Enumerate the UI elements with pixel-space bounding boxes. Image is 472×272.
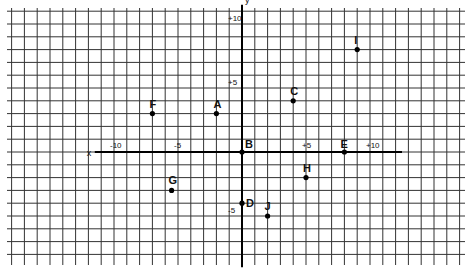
x-tick-label: -10: [110, 141, 122, 150]
point-label-b: B: [245, 138, 253, 150]
x-tick-label: +10: [366, 141, 380, 150]
x-tick-label: -5: [174, 141, 182, 150]
point-label-j: J: [265, 200, 271, 212]
point-label-i: I: [354, 34, 357, 46]
point-label-f: F: [149, 98, 156, 110]
point-c: [291, 98, 296, 103]
grid-lines: [7, 8, 465, 265]
y-tick-label: +5: [228, 78, 238, 87]
point-label-g: G: [169, 174, 178, 186]
point-h: [303, 175, 308, 180]
point-j: [265, 213, 270, 218]
coordinate-plane: xy -10-5+5+10+10+5-5 ABCDEFGHIJ: [0, 0, 472, 272]
x-axis-label: x: [87, 148, 92, 158]
x-tick-label: +5: [302, 141, 312, 150]
point-b: [239, 149, 244, 154]
point-a: [214, 111, 219, 116]
point-d: [239, 201, 244, 206]
y-tick-label: +10: [228, 14, 242, 23]
point-label-d: D: [246, 197, 254, 209]
point-label-a: A: [213, 98, 221, 110]
point-e: [342, 149, 347, 154]
point-label-c: C: [290, 85, 298, 97]
point-i: [355, 47, 360, 52]
point-g: [169, 188, 174, 193]
y-axis-label: y: [245, 0, 250, 5]
point-f: [150, 111, 155, 116]
y-tick-label: -5: [228, 206, 236, 215]
point-label-e: E: [340, 138, 347, 150]
point-label-h: H: [303, 162, 311, 174]
